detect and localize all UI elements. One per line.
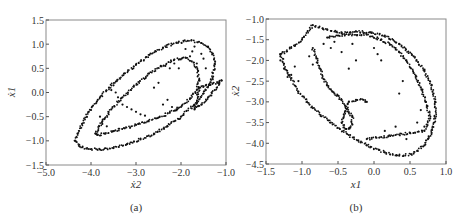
x-tick-label: 1.0 <box>440 166 453 177</box>
trajectory-dot <box>343 131 345 133</box>
trajectory-dot <box>428 115 430 117</box>
trajectory-dot <box>133 84 135 86</box>
trajectory-dot <box>353 117 355 119</box>
trajectory-dot <box>423 95 425 97</box>
trajectory-dot <box>108 111 110 113</box>
data-point <box>117 96 119 98</box>
trajectory-dot <box>199 80 201 82</box>
data-point <box>200 104 202 106</box>
data-point <box>184 48 186 50</box>
trajectory-dot <box>388 38 390 40</box>
trajectory-dot <box>134 125 136 127</box>
trajectory-dot <box>367 34 369 36</box>
trajectory-dot <box>121 128 123 130</box>
panel-b-ticks: −1.5−1.0−0.50.00.51.0−4.5−4.0−3.5−3.0−2.… <box>246 14 452 178</box>
trajectory-dot <box>203 91 205 93</box>
trajectory-dot <box>317 62 319 64</box>
trajectory-dot <box>345 107 347 109</box>
data-point <box>169 67 171 69</box>
y-tick-label: −1.5 <box>246 34 264 45</box>
data-point <box>355 59 357 61</box>
trajectory-dot <box>212 72 214 74</box>
trajectory-dot <box>369 137 371 139</box>
trajectory-dot <box>166 46 168 48</box>
trajectory-dot <box>123 74 125 76</box>
trajectory-dot <box>197 75 199 77</box>
trajectory-dot <box>196 83 198 85</box>
trajectory-dot <box>372 137 374 139</box>
trajectory-dot <box>199 89 201 91</box>
trajectory-dot <box>173 59 175 61</box>
data-point <box>420 109 422 111</box>
trajectory-dot <box>186 110 188 112</box>
data-point <box>171 106 173 108</box>
trajectory-dot <box>118 128 120 130</box>
trajectory-dot <box>325 81 327 83</box>
trajectory-dot <box>375 137 377 139</box>
trajectory-dot <box>406 134 408 136</box>
data-point <box>110 89 112 91</box>
trajectory-dot <box>342 33 344 35</box>
trajectory-dot <box>284 53 286 55</box>
panel-a: −5.0−4.0−3.0−2.0−1.0−1.5−1.0−0.50.00.51.… <box>5 15 235 215</box>
trajectory-dot <box>183 103 185 105</box>
trajectory-dot <box>138 62 140 64</box>
trajectory-dot <box>136 141 138 143</box>
trajectory-dot <box>112 106 114 108</box>
trajectory-dot <box>98 125 100 127</box>
data-point <box>366 101 368 103</box>
trajectory-dot <box>435 114 437 116</box>
trajectory-dot <box>281 56 283 58</box>
trajectory-dot <box>419 82 421 84</box>
trajectory-dot <box>341 131 343 133</box>
y-tick-label: −4.0 <box>246 138 264 149</box>
trajectory-dot <box>405 49 407 51</box>
trajectory-dot <box>111 147 113 149</box>
data-point <box>169 112 171 114</box>
data-point <box>287 72 289 74</box>
trajectory-dot <box>403 155 405 157</box>
trajectory-dot <box>154 68 156 70</box>
trajectory-dot <box>396 154 398 156</box>
trajectory-dot <box>177 118 179 120</box>
trajectory-dot <box>310 25 312 27</box>
trajectory-dot <box>141 78 143 80</box>
trajectory-dot <box>170 122 172 124</box>
trajectory-dot <box>307 32 309 34</box>
trajectory-dot <box>345 131 347 133</box>
trajectory-dot <box>387 135 389 137</box>
data-point <box>420 86 422 88</box>
data-point <box>279 59 281 61</box>
trajectory-dot <box>202 93 204 95</box>
trajectory-dot <box>156 49 158 51</box>
trajectory-dot <box>421 130 423 132</box>
trajectory-dot <box>131 88 133 90</box>
trajectory-dot <box>418 64 420 66</box>
trajectory-dot <box>214 69 216 71</box>
trajectory-dot <box>136 83 138 85</box>
trajectory-dot <box>292 83 294 85</box>
trajectory-dot <box>359 34 361 36</box>
trajectory-dot <box>102 93 104 95</box>
data-point <box>130 108 132 110</box>
trajectory-dot <box>425 73 427 75</box>
y-tick-label: 1.0 <box>32 39 45 50</box>
trajectory-dot <box>351 33 353 35</box>
trajectory-dot <box>374 33 376 35</box>
trajectory-dot <box>404 58 406 60</box>
data-point <box>283 68 285 70</box>
panel-a-label: (a) <box>130 201 143 214</box>
data-point <box>434 117 436 119</box>
trajectory-dot <box>361 142 363 144</box>
trajectory-dot <box>197 81 199 83</box>
trajectory-dot <box>127 92 129 94</box>
trajectory-dot <box>429 120 431 122</box>
trajectory-dot <box>170 45 172 47</box>
trajectory-dot <box>144 122 146 124</box>
trajectory-dot <box>203 86 205 88</box>
y-tick-label: −3.0 <box>246 96 264 107</box>
trajectory-dot <box>326 82 328 84</box>
trajectory-dot <box>152 70 154 72</box>
trajectory-dot <box>196 103 198 105</box>
trajectory-dot <box>323 81 325 83</box>
